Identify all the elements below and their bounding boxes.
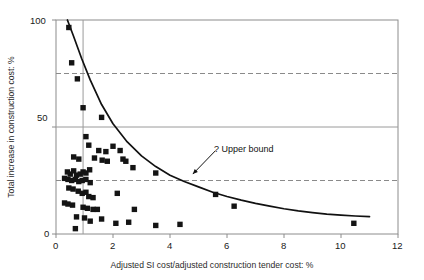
scatter-marker — [95, 207, 100, 212]
scatter-marker — [177, 222, 182, 227]
scatter-marker — [92, 155, 97, 160]
scatter-marker — [74, 172, 79, 177]
scatter-marker — [73, 226, 78, 231]
scatter-marker — [90, 195, 95, 200]
curve-upper-bound-curve — [67, 20, 369, 217]
axes-frame — [56, 20, 398, 234]
scatter-marker — [88, 218, 93, 223]
scatter-marker — [132, 207, 137, 212]
plot-area — [0, 0, 424, 280]
scatter-marker — [76, 189, 81, 194]
scatter-marker — [88, 180, 93, 185]
xtick-label-6: 6 — [224, 240, 229, 251]
xtick-label-10: 10 — [335, 240, 346, 251]
scatter-marker — [153, 170, 158, 175]
scatter-marker — [73, 177, 78, 182]
scatter-marker — [120, 156, 125, 161]
scatter-marker — [90, 207, 95, 212]
scatter-marker — [231, 203, 236, 208]
scatter-marker — [117, 148, 122, 153]
scatter-marker — [85, 206, 90, 211]
scatter-marker — [80, 205, 85, 210]
scatter-marker — [83, 134, 88, 139]
ytick-label-100: 100 — [30, 15, 46, 26]
scatter-marker — [71, 168, 76, 173]
scatter-marker — [99, 216, 104, 221]
scatter-marker — [65, 201, 70, 206]
scatter-marker — [96, 148, 101, 153]
scatter-marker — [76, 179, 81, 184]
scatter-marker — [70, 202, 75, 207]
scatter-marker — [69, 60, 74, 65]
scatter-marker — [83, 190, 88, 195]
scatter-marker — [69, 178, 74, 183]
scatter-marker — [80, 191, 85, 196]
upper-bound-annotation-line — [193, 151, 216, 175]
scatter-marker — [74, 214, 79, 219]
scatter-marker — [62, 200, 67, 205]
chart-figure: 100 50 0 0 2 4 6 8 10 12 Total increase … — [0, 0, 424, 280]
scatter-marker — [153, 223, 158, 228]
x-axis-title: Adjusted SI cost/adjusted construction t… — [0, 260, 424, 270]
upper-bound-annotation-arrowhead — [193, 169, 198, 174]
upper-bound-curve — [67, 20, 369, 217]
scatter-marker — [110, 144, 115, 149]
scatter-marker — [65, 177, 70, 182]
scatter-marker — [99, 115, 104, 120]
scatter-marker — [351, 221, 356, 226]
scatter-marker — [126, 220, 131, 225]
scatter-marker — [103, 149, 108, 154]
scatter-marker — [99, 157, 104, 162]
scatter-marker — [115, 191, 120, 196]
scatter-marker — [213, 192, 218, 197]
scatter-marker — [76, 156, 81, 161]
dashed-gridlines — [56, 74, 398, 181]
annotation-arrow — [193, 151, 216, 175]
xtick-label-4: 4 — [167, 240, 172, 251]
scatter-marker — [80, 169, 85, 174]
xtick-label-2: 2 — [110, 240, 115, 251]
scatter-marker — [62, 176, 67, 181]
scatter-marker — [86, 194, 91, 199]
scatter-marker — [130, 165, 135, 170]
scatter-marker — [80, 105, 85, 110]
scatter-marker — [83, 170, 88, 175]
solid-gridlines — [56, 20, 398, 234]
ytick-label-50: 50 — [37, 112, 48, 123]
xtick-label-8: 8 — [281, 240, 286, 251]
scatter-marker — [70, 186, 75, 191]
scatter-marker — [123, 159, 128, 164]
scatter-marker — [66, 185, 71, 190]
scatter-marker — [80, 178, 85, 183]
scatter-marker — [105, 159, 110, 164]
scatter-markers — [62, 25, 357, 232]
upper-bound-annotation-label: ? Upper bound — [214, 144, 274, 154]
scatter-marker — [71, 154, 76, 159]
scatter-marker — [83, 177, 88, 182]
xtick-label-0: 0 — [53, 240, 58, 251]
scatter-marker — [82, 215, 87, 220]
scatter-marker — [87, 167, 92, 172]
scatter-marker — [113, 221, 118, 226]
ytick-label-0: 0 — [44, 228, 49, 239]
scatter-marker — [66, 25, 71, 30]
xtick-label-12: 12 — [392, 240, 403, 251]
y-axis-title: Total increase in construction cost: % — [6, 32, 16, 222]
scatter-marker — [75, 76, 80, 81]
scatter-marker — [68, 171, 73, 176]
scatter-marker — [78, 171, 83, 176]
scatter-marker — [65, 169, 70, 174]
plot-frame — [52, 20, 398, 238]
scatter-marker — [86, 142, 91, 147]
